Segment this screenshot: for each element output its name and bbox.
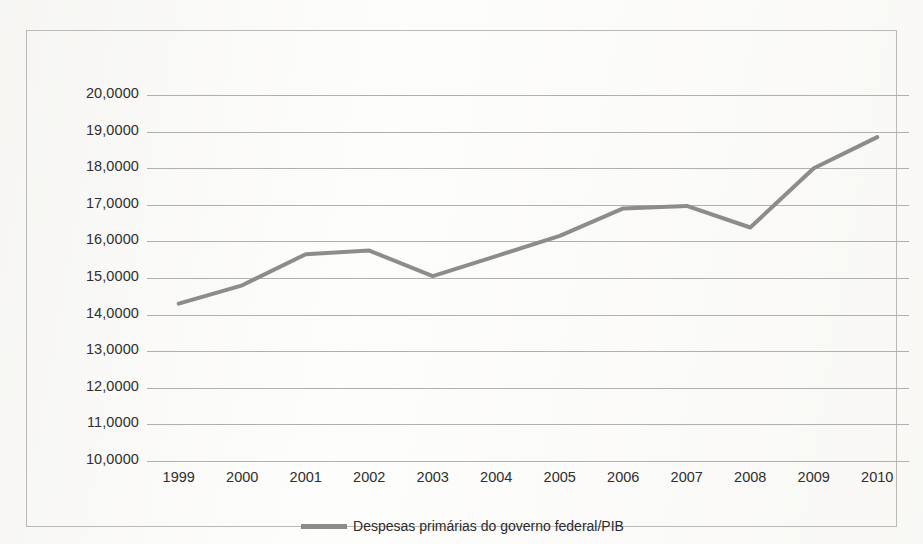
- x-axis-tick-label: 2008: [715, 469, 785, 485]
- y-axis-tick-label: 12,0000: [55, 378, 139, 394]
- y-axis-tick-label: 16,0000: [55, 231, 139, 247]
- x-axis-tick-label: 2003: [398, 469, 468, 485]
- x-axis-tick-label: 2001: [271, 469, 341, 485]
- x-axis-tick-label: 2009: [779, 469, 849, 485]
- legend-line-swatch-icon: [301, 524, 347, 529]
- x-axis-tick-label: 2004: [461, 469, 531, 485]
- y-axis-tick-label: 19,0000: [55, 122, 139, 138]
- x-axis-tick-label: 2005: [525, 469, 595, 485]
- series-line-despesas-primarias: [179, 137, 878, 304]
- y-axis-tick-label: 17,0000: [55, 195, 139, 211]
- y-axis-tick-label: 15,0000: [55, 268, 139, 284]
- legend-item-label: Despesas primárias do governo federal/PI…: [353, 518, 624, 534]
- y-axis-tick-labels: 20,000019,000018,000017,000016,000015,00…: [53, 95, 139, 461]
- x-axis-tick-label: 2007: [652, 469, 722, 485]
- y-axis-tick-label: 11,0000: [55, 414, 139, 430]
- x-axis-tick-label: 2002: [334, 469, 404, 485]
- y-axis-tick-label: 14,0000: [55, 305, 139, 321]
- x-axis-tick-label: 1999: [144, 469, 214, 485]
- x-axis-tick-label: 2010: [842, 469, 912, 485]
- chart-border: 20,000019,000018,000017,000016,000015,00…: [26, 30, 897, 527]
- x-axis-tick-labels: 1999200020012002200320042005200620072008…: [147, 469, 909, 495]
- plot-area: [147, 95, 909, 461]
- y-axis-tick-label: 20,0000: [55, 85, 139, 101]
- chart-legend: Despesas primárias do governo federal/PI…: [27, 518, 898, 534]
- y-axis-tick-label: 18,0000: [55, 158, 139, 174]
- x-axis-tick-label: 2006: [588, 469, 658, 485]
- gridline: [147, 461, 909, 462]
- x-axis-tick-label: 2000: [207, 469, 277, 485]
- chart-figure: 20,000019,000018,000017,000016,000015,00…: [0, 0, 923, 544]
- y-axis-tick-label: 13,0000: [55, 341, 139, 357]
- line-series-svg: [147, 95, 909, 461]
- y-axis-tick-label: 10,0000: [55, 451, 139, 467]
